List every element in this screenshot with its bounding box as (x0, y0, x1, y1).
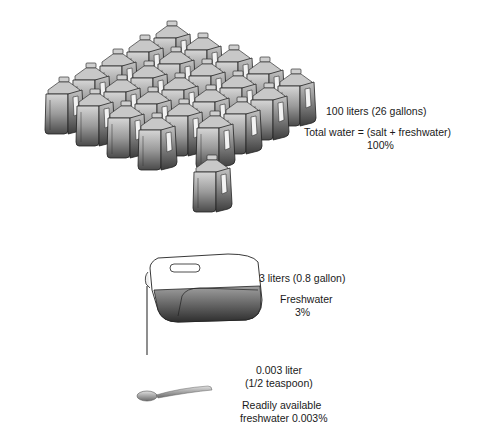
illustration-canvas (0, 0, 488, 431)
freshwater-amount: 3 liters (0.8 gallon) (259, 272, 345, 284)
available-description-line1: Readily available (242, 399, 321, 411)
available-amount: 0.003 liter (256, 364, 302, 376)
freshwater-percent: 3% (295, 306, 310, 318)
pouring-jug-icon (145, 254, 262, 355)
total-water-jugs (45, 21, 316, 212)
water-jug-icon (45, 21, 316, 212)
total-water-percent: 100% (367, 139, 394, 151)
available-measure: (1/2 teaspoon) (245, 377, 313, 389)
total-water-amount: 100 liters (26 gallons) (326, 105, 426, 117)
teaspoon-icon (137, 386, 212, 401)
total-water-description: Total water = (salt + freshwater) (304, 126, 451, 138)
available-description-line2: freshwater 0.003% (240, 412, 328, 424)
freshwater-description: Freshwater (280, 293, 333, 305)
